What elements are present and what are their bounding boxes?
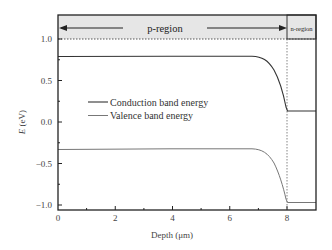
x-tick-6: 6	[228, 213, 233, 223]
y-tick-1: 1.0	[41, 34, 53, 44]
y-axis-unit: (eV)	[17, 110, 27, 129]
n-region-label: n-region	[290, 25, 313, 32]
x-axis-title: Depth (μm)	[151, 230, 193, 240]
x-tick-8: 8	[285, 213, 290, 223]
legend-label-conduction: Conduction band energy	[110, 97, 208, 108]
x-tick-2: 2	[113, 213, 118, 223]
region-band	[58, 15, 316, 39]
y-axis-title: E (eV)	[17, 110, 27, 135]
legend: Conduction band energy Valence band ener…	[88, 97, 208, 122]
x-tick-4: 4	[170, 213, 175, 223]
y-tick-neg-1: −1.0	[36, 200, 53, 210]
y-tick-neg-0.5: −0.5	[36, 159, 53, 169]
valence-band-line	[58, 149, 316, 203]
y-tick-0.5: 0.5	[41, 76, 53, 86]
x-tick-0: 0	[56, 213, 61, 223]
y-tick-0: 0.0	[41, 117, 53, 127]
p-region-label: p-region	[147, 23, 183, 34]
legend-label-valence: Valence band energy	[110, 110, 193, 121]
band-diagram-chart: p-region n-region 1.0 0.5 0.0 −0.5 −1.0 …	[0, 0, 332, 250]
